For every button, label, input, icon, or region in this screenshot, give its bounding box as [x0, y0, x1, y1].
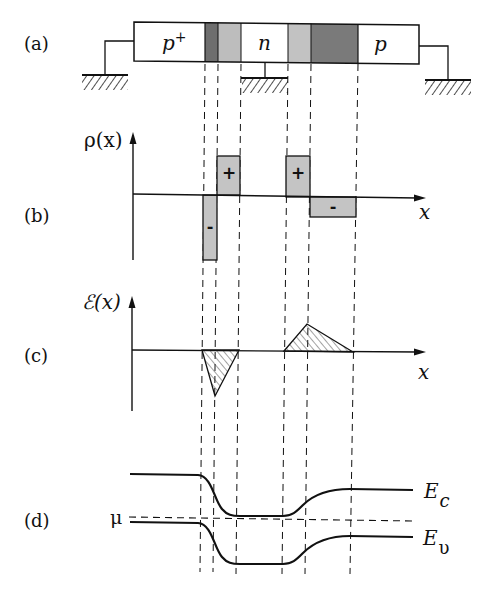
boundary-guides — [200, 64, 358, 574]
region-label-p: p — [374, 32, 387, 56]
field-axis-label: ℰ(x) — [82, 290, 121, 314]
x-axis-label: x — [419, 200, 430, 224]
rho-axis-label: ρ(x) — [84, 128, 123, 152]
fermi-level-line — [129, 517, 413, 521]
region-depletion-p — [311, 24, 358, 63]
sign-plus-1: + — [222, 163, 236, 183]
y-axis-arrow-icon — [130, 132, 137, 144]
panel-label-b: (b) — [24, 205, 50, 226]
x-axis-arrow-icon — [414, 349, 426, 356]
region-depletion-p-plus — [205, 23, 218, 62]
field-triangle-negative — [202, 350, 239, 396]
sign-plus-2: + — [291, 163, 305, 183]
x-axis — [133, 194, 418, 198]
electric-field-plot: ℰ(x) x — [82, 290, 429, 411]
ev-label: Eυ — [422, 526, 450, 558]
ground-hatch-icon — [242, 79, 288, 93]
x-axis — [132, 350, 418, 352]
device-structure: p+ n p — [134, 22, 419, 64]
sign-minus-2: - — [330, 197, 337, 216]
charge-density-plot: - + + - ρ(x) x — [84, 128, 430, 260]
region-label-p-plus: p+ — [162, 29, 187, 55]
ground-hatch-icon — [425, 81, 471, 95]
y-axis-arrow-icon — [129, 296, 136, 308]
region-depletion-n-right — [288, 24, 311, 63]
left-ground — [82, 41, 134, 90]
right-ground — [419, 46, 471, 95]
middle-ground — [241, 62, 288, 93]
field-triangle-positive — [284, 324, 353, 352]
band-diagram: μ Ec Eυ — [110, 474, 450, 564]
conduction-band-curve — [130, 474, 413, 516]
fermi-level-label: μ — [110, 506, 122, 528]
panel-label-c: (c) — [24, 345, 48, 366]
x-axis-label: x — [418, 360, 429, 384]
ec-label: Ec — [423, 479, 450, 511]
panel-label-a: (a) — [24, 33, 49, 54]
ground-hatch-icon — [82, 76, 128, 90]
region-label-n: n — [258, 31, 271, 55]
panel-label-d: (d) — [24, 510, 50, 531]
sign-minus-1: - — [207, 217, 214, 236]
junction-diagram: (a) (b) (c) (d) p+ n p — [0, 0, 489, 591]
region-depletion-n-left — [218, 23, 241, 62]
valence-band-curve — [130, 522, 413, 564]
